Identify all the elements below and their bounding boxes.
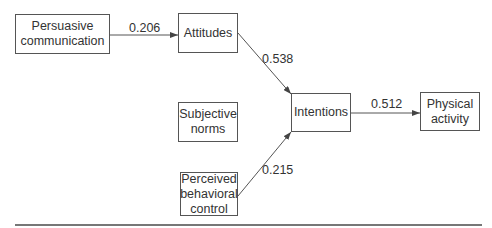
node-persuasive-communication: Persuasive communication <box>15 14 110 54</box>
coef-attitudes-intentions: 0.538 <box>262 52 293 66</box>
node-intentions: Intentions <box>291 93 351 132</box>
coef-persuasive-attitudes: 0.206 <box>129 21 160 35</box>
coef-intentions-physical: 0.512 <box>371 97 402 111</box>
node-physical-activity: Physical activity <box>420 92 480 131</box>
coef-perceived-intentions: 0.215 <box>262 163 293 177</box>
node-attitudes: Attitudes <box>178 13 238 53</box>
node-perceived-behavioral-control: Perceived behavioral control <box>180 172 238 216</box>
bottom-rule <box>15 224 482 226</box>
node-subjective-norms: Subjective norms <box>178 102 238 142</box>
